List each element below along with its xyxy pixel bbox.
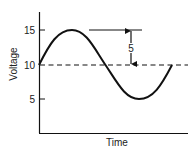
y-tick-label-5: 5 [29, 94, 35, 105]
y-axis-title: Voltage [8, 47, 19, 81]
amplitude-label: 5 [128, 43, 134, 54]
x-axis-title: Time [106, 137, 128, 148]
voltage-sine-chart: 15 10 5 Voltage Time 5 [0, 0, 196, 152]
y-tick-label-15: 15 [24, 25, 36, 36]
y-tick-label-10: 10 [24, 60, 36, 71]
